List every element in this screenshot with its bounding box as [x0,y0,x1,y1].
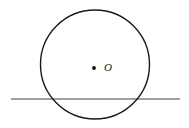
geometry-figure: O [0,0,189,128]
figure-background [0,0,189,128]
figure-canvas [0,0,189,128]
center-point-label: O [104,62,112,73]
center-point-dot [92,66,96,70]
